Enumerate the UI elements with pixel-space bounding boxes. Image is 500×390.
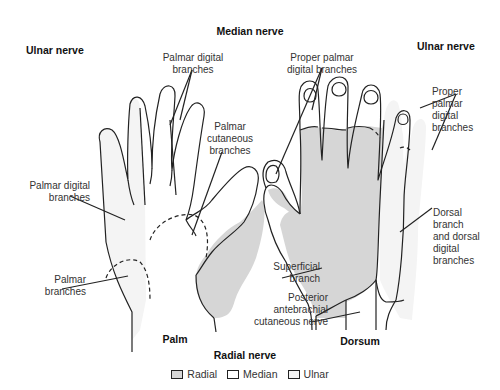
nail-middle [332,83,346,97]
heading-median-nerve: Median nerve [210,25,290,37]
nail-ring [364,91,378,105]
legend-label-ulnar: Ulnar [304,368,329,380]
legend-swatch-radial [171,370,183,379]
legend-swatch-median [227,370,239,379]
legend-label-radial: Radial [187,368,217,380]
label-proper-palmar-right: Proper palmar digital branches [432,86,492,134]
label-superficial-branch: Superficial branch [236,261,320,285]
label-palmar-digital-left: Palmar digital branches [6,180,90,204]
heading-ulnar-nerve-left: Ulnar nerve [26,44,84,56]
palm-cutaneous-dashed [150,214,208,258]
label-palm: Palm [145,333,205,345]
label-dorsum: Dorsum [320,335,400,347]
dorsum-hand [263,68,456,330]
label-palmar-cutaneous: Palmar cutaneous branches [200,121,260,157]
heading-ulnar-nerve-right: Ulnar nerve [417,40,475,52]
label-dorsal-branch: Dorsal branch and dorsal digital branche… [433,207,497,267]
legend-swatch-ulnar [288,370,300,379]
legend-item-median: Median [227,368,277,380]
label-proper-palmar-top: Proper palmar digital branches [274,52,370,76]
label-posterior-antebrachial: Posterior antebrachial cutaneous nerve [220,292,328,328]
heading-radial-nerve: Radial nerve [195,349,295,361]
legend-item-radial: Radial [171,368,217,380]
legend-label-median: Median [243,368,277,380]
legend: Radial Median Ulnar [0,368,500,380]
label-palmar-digital-top: Palmar digital branches [156,52,230,76]
legend-item-ulnar: Ulnar [288,368,329,380]
label-palmar-branches: Palmar branches [20,274,86,298]
dorsum-ulnar-region [380,100,426,320]
dorsum-thumbnail [266,165,279,182]
